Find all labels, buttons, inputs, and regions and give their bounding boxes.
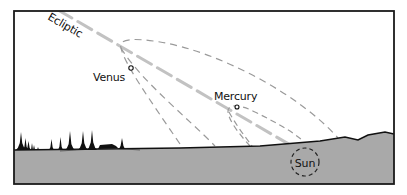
mercury-dot — [235, 105, 239, 109]
venus-label: Venus — [93, 71, 126, 84]
mercury-label: Mercury — [214, 90, 258, 103]
venus-dot — [129, 66, 133, 70]
sun-label: Sun — [295, 157, 316, 170]
sky-diagram: Sun Venus Mercury Ecliptic — [0, 0, 407, 195]
